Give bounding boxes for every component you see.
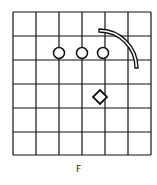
figure-label: F bbox=[0, 164, 157, 174]
grid bbox=[13, 12, 151, 155]
circle-shape bbox=[98, 48, 109, 59]
shapes bbox=[54, 29, 139, 104]
circle-shape bbox=[54, 48, 65, 59]
puzzle-figure bbox=[0, 0, 157, 185]
circle-shape bbox=[77, 48, 88, 59]
